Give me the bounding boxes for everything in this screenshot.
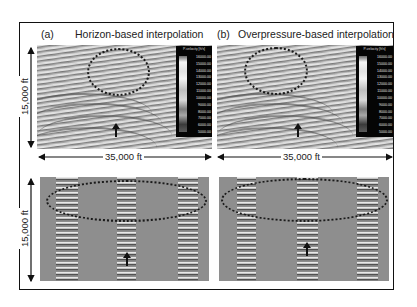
- height-label-top: 15,000 ft: [19, 76, 30, 117]
- up-arrow-icon: [123, 252, 131, 266]
- up-arrow-icon: [112, 123, 120, 137]
- width-label-b: 35,000 ft: [281, 151, 322, 162]
- up-arrow-icon: [294, 123, 302, 137]
- annotation-overlay: [0, 0, 417, 307]
- width-label-a: 35,000 ft: [103, 151, 144, 162]
- up-arrow-icon: [303, 242, 311, 256]
- height-label-bottom: 15,000 ft: [19, 208, 30, 249]
